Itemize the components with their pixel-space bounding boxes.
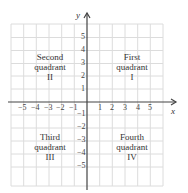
y-axis-label: y — [76, 10, 80, 20]
y-tick: 2 — [81, 72, 85, 80]
x-axis-label: x — [171, 106, 175, 116]
x-tick: −3 — [44, 104, 53, 112]
y-tick: 3 — [81, 59, 85, 67]
y-tick: −2 — [77, 123, 86, 131]
quadrant-2-label: Second quadrant II — [22, 52, 78, 82]
quadrant-1-label: First quadrant I — [104, 52, 160, 82]
x-tick: 2 — [110, 104, 114, 112]
y-tick: 1 — [81, 85, 85, 93]
y-tick: −3 — [77, 136, 86, 144]
coordinate-grid — [0, 0, 188, 193]
quadrant-3-label: Third quadrant III — [22, 132, 78, 162]
x-tick: −2 — [56, 104, 65, 112]
x-tick: −4 — [31, 104, 40, 112]
quadrant-4-label: Fourth quadrant IV — [104, 132, 160, 162]
y-tick: −5 — [77, 162, 86, 170]
y-tick: 5 — [81, 33, 85, 41]
y-tick: −1 — [77, 110, 86, 118]
x-tick: 4 — [136, 104, 140, 112]
y-tick: 4 — [81, 46, 85, 54]
x-tick: −5 — [18, 104, 27, 112]
x-tick: 3 — [123, 104, 127, 112]
x-tick: 1 — [98, 104, 102, 112]
y-tick: −4 — [77, 149, 86, 157]
x-tick: 5 — [148, 104, 152, 112]
